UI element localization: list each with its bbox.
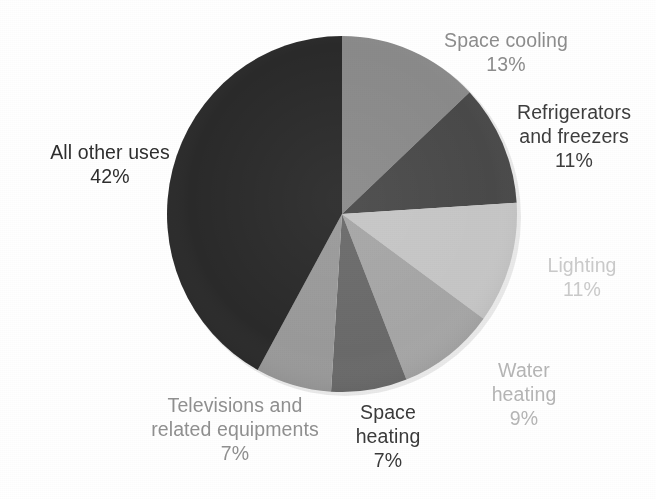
slice-label-all-other-uses-name: All other uses [20,140,200,164]
pie-chart: Space cooling 13% Refrigerators and free… [0,0,656,499]
slice-label-televisions-line2: related equipments [122,417,348,441]
slice-label-space-cooling-name: Space cooling [408,28,604,52]
slice-label-all-other-uses-value: 42% [20,164,200,188]
pie-shading-overlay [167,36,517,392]
slice-label-water-heating-line2: heating [460,382,588,406]
slice-label-space-cooling: Space cooling 13% [408,28,604,76]
slice-label-all-other-uses: All other uses 42% [20,140,200,188]
slice-label-televisions-line1: Televisions and [122,393,348,417]
slice-label-refrigerators-value: 11% [492,148,656,172]
slice-label-lighting: Lighting 11% [520,253,644,301]
slice-label-water-heating-value: 9% [460,406,588,430]
slice-label-refrigerators-line1: Refrigerators [492,100,656,124]
slice-label-televisions: Televisions and related equipments 7% [122,393,348,466]
slice-label-refrigerators-line2: and freezers [492,124,656,148]
slice-label-refrigerators-and-freezers: Refrigerators and freezers 11% [492,100,656,173]
slice-label-water-heating-line1: Water [460,358,588,382]
slice-label-lighting-name: Lighting [520,253,644,277]
slice-label-space-cooling-value: 13% [408,52,604,76]
slice-label-lighting-value: 11% [520,277,644,301]
slice-label-televisions-value: 7% [122,441,348,465]
slice-label-water-heating: Water heating 9% [460,358,588,431]
